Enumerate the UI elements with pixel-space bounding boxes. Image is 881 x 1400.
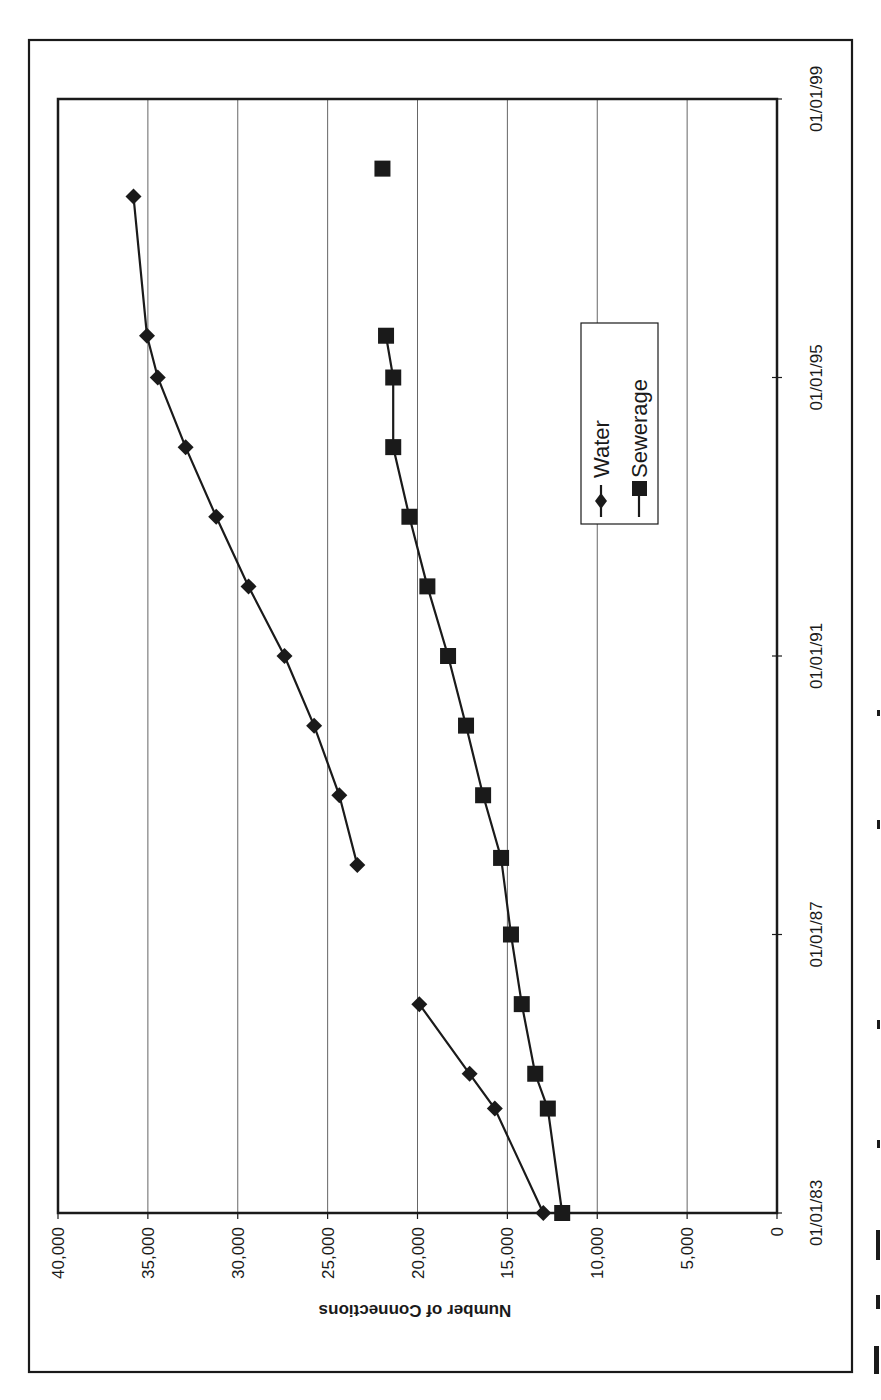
- square-marker-icon: [540, 1101, 556, 1117]
- value-tick-label: 0: [768, 1227, 787, 1236]
- diamond-marker-icon: [276, 648, 292, 664]
- value-tick-label: 10,000: [588, 1227, 607, 1279]
- gridlines: [148, 99, 687, 1213]
- series-sewerage: [374, 161, 570, 1221]
- square-marker-icon: [401, 509, 417, 525]
- square-marker-icon: [378, 328, 394, 344]
- square-marker-icon: [514, 996, 530, 1012]
- square-marker-icon: [385, 439, 401, 455]
- value-tick-label: 25,000: [319, 1227, 338, 1279]
- value-tick-label: 15,000: [498, 1227, 517, 1279]
- series-water: [125, 188, 551, 1221]
- legend: Water Sewerage: [581, 323, 658, 524]
- time-tick-label: 01/01/95: [807, 344, 826, 410]
- diamond-marker-icon: [139, 328, 155, 344]
- square-marker-icon: [632, 481, 647, 496]
- value-tick-label: 20,000: [409, 1227, 428, 1279]
- time-tick-label: 01/01/83: [807, 1180, 826, 1246]
- time-tick-label: 01/01/99: [807, 66, 826, 132]
- diamond-marker-icon: [208, 509, 224, 525]
- value-tick-label: 5,000: [678, 1227, 697, 1270]
- value-tick-label: 40,000: [49, 1227, 68, 1279]
- diamond-marker-icon: [241, 578, 257, 594]
- time-tick-label: 01/01/91: [807, 623, 826, 689]
- diamond-marker-icon: [535, 1205, 551, 1221]
- square-marker-icon: [419, 578, 435, 594]
- time-axis: 01/01/8301/01/8701/01/9101/01/9501/01/99: [772, 66, 826, 1246]
- square-marker-icon: [475, 787, 491, 803]
- square-marker-icon: [527, 1066, 543, 1082]
- value-tick-label: 30,000: [229, 1227, 248, 1279]
- diamond-marker-icon: [411, 996, 427, 1012]
- legend-label-water: Water: [589, 420, 614, 478]
- diamond-marker-icon: [178, 439, 194, 455]
- diamond-marker-icon: [349, 857, 365, 873]
- y-axis-title: Number of Connections: [319, 1301, 512, 1320]
- diamond-marker-icon: [331, 787, 347, 803]
- chart-outer-frame: [29, 40, 852, 1372]
- diamond-marker-icon: [306, 718, 322, 734]
- square-marker-icon: [503, 927, 519, 943]
- caption-fragment: [874, 710, 880, 1374]
- legend-label-sewerage: Sewerage: [627, 379, 652, 478]
- time-tick-label: 01/01/87: [807, 901, 826, 967]
- diamond-marker-icon: [462, 1066, 478, 1082]
- square-marker-icon: [440, 648, 456, 664]
- square-marker-icon: [493, 850, 509, 866]
- series-line: [419, 1004, 543, 1213]
- value-tick-label: 35,000: [139, 1227, 158, 1279]
- value-axis: 05,00010,00015,00020,00025,00030,00035,0…: [49, 1213, 787, 1279]
- chart: 01/01/8301/01/8701/01/9101/01/9501/01/99…: [0, 0, 881, 1400]
- square-marker-icon: [374, 161, 390, 177]
- series-line: [134, 197, 358, 865]
- diamond-marker-icon: [125, 188, 141, 204]
- square-marker-icon: [554, 1205, 570, 1221]
- square-marker-icon: [458, 718, 474, 734]
- series: [125, 161, 570, 1221]
- diamond-marker-icon: [150, 370, 166, 386]
- square-marker-icon: [385, 370, 401, 386]
- diamond-marker-icon: [487, 1101, 503, 1117]
